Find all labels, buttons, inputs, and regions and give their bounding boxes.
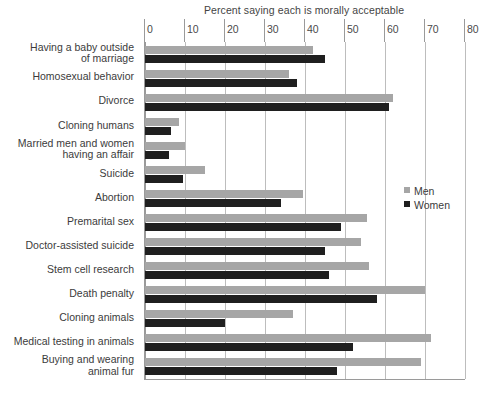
category-label: Cloning animals xyxy=(0,312,134,324)
category-label: Cloning humans xyxy=(0,120,134,132)
bar-women xyxy=(145,271,329,279)
bar-women xyxy=(145,199,281,207)
category-label-line: Stem cell research xyxy=(0,264,134,276)
category-label-line: Medical testing in animals xyxy=(0,336,134,348)
bar-women xyxy=(145,55,325,63)
bar-women xyxy=(145,319,225,327)
category-label: Premarital sex xyxy=(0,216,134,228)
category-label-line: Death penalty xyxy=(0,288,134,300)
bar-men xyxy=(145,238,361,246)
x-axis: 01020304050607080 xyxy=(144,19,465,42)
x-axis-tick-label: 20 xyxy=(224,23,239,35)
category-label-line: Doctor-assisted suicide xyxy=(0,240,134,252)
legend-swatch-icon xyxy=(404,187,410,193)
category-label-line: Homosexual behavior xyxy=(0,71,134,83)
bar-women xyxy=(145,151,169,159)
bar-group xyxy=(145,90,465,114)
bar-women xyxy=(145,367,337,375)
category-label-line: Divorce xyxy=(0,95,134,107)
bar-men xyxy=(145,166,205,174)
bar-group xyxy=(145,355,465,379)
category-label: Death penalty xyxy=(0,288,134,300)
bar-women xyxy=(145,295,377,303)
chart-title: Percent saying each is morally acceptabl… xyxy=(144,4,464,16)
bar-men xyxy=(145,214,367,222)
legend-swatch-icon xyxy=(404,201,410,207)
bar-women xyxy=(145,175,183,183)
category-label: Abortion xyxy=(0,192,134,204)
x-axis-tick-label: 70 xyxy=(424,23,439,35)
bar-women xyxy=(145,343,353,351)
x-axis-tick-label: 60 xyxy=(384,23,399,35)
category-label-line: of marriage xyxy=(0,53,134,65)
bar-group xyxy=(145,211,465,235)
category-label: Buying and wearinganimal fur xyxy=(0,354,134,377)
category-label: Divorce xyxy=(0,95,134,107)
bar-men xyxy=(145,334,431,342)
bar-group xyxy=(145,114,465,138)
bar-men xyxy=(145,46,313,54)
category-label-line: animal fur xyxy=(0,366,134,378)
bar-women xyxy=(145,223,341,231)
bar-women xyxy=(145,127,171,135)
x-axis-tick-label: 30 xyxy=(264,23,279,35)
bar-women xyxy=(145,247,325,255)
legend-label: Women xyxy=(414,198,450,212)
bar-group xyxy=(145,307,465,331)
category-label-line: having an affair xyxy=(0,149,134,161)
x-axis-tick-label: 50 xyxy=(344,23,359,35)
bar-men xyxy=(145,142,185,150)
category-label-line: Cloning humans xyxy=(0,120,134,132)
bar-group xyxy=(145,66,465,90)
bar-men xyxy=(145,190,303,198)
x-axis-tick-label: 10 xyxy=(184,23,199,35)
bar-men xyxy=(145,310,293,318)
category-label: Doctor-assisted suicide xyxy=(0,240,134,252)
bar-women xyxy=(145,79,297,87)
category-label-line: Premarital sex xyxy=(0,216,134,228)
category-label-line: Cloning animals xyxy=(0,312,134,324)
category-axis-labels: Having a baby outsideof marriageHomosexu… xyxy=(0,42,139,379)
category-label: Having a baby outsideof marriage xyxy=(0,42,134,65)
bar-women xyxy=(145,103,389,111)
bar-men xyxy=(145,286,425,294)
bar-group xyxy=(145,283,465,307)
x-axis-tick-label: 80 xyxy=(464,23,479,35)
bar-group xyxy=(145,138,465,162)
x-axis-tick-label: 0 xyxy=(144,23,153,35)
bar-men xyxy=(145,262,369,270)
category-label-line: Suicide xyxy=(0,168,134,180)
bar-group xyxy=(145,235,465,259)
bar-men xyxy=(145,94,393,102)
category-label: Homosexual behavior xyxy=(0,71,134,83)
bar-group xyxy=(145,259,465,283)
bar-men xyxy=(145,358,421,366)
axis-baseline xyxy=(144,379,465,380)
chart-legend: MenWomen xyxy=(404,183,466,211)
bar-group xyxy=(145,331,465,355)
bar-men xyxy=(145,118,179,126)
bar-group xyxy=(145,42,465,66)
category-label: Stem cell research xyxy=(0,264,134,276)
category-label-line: Abortion xyxy=(0,192,134,204)
legend-entry: Women xyxy=(404,197,466,211)
x-axis-tick-label: 40 xyxy=(304,23,319,35)
category-label: Suicide xyxy=(0,168,134,180)
category-label: Married men and womenhaving an affair xyxy=(0,138,134,161)
legend-entry: Men xyxy=(404,183,466,197)
bar-men xyxy=(145,70,289,78)
category-label: Medical testing in animals xyxy=(0,336,134,348)
